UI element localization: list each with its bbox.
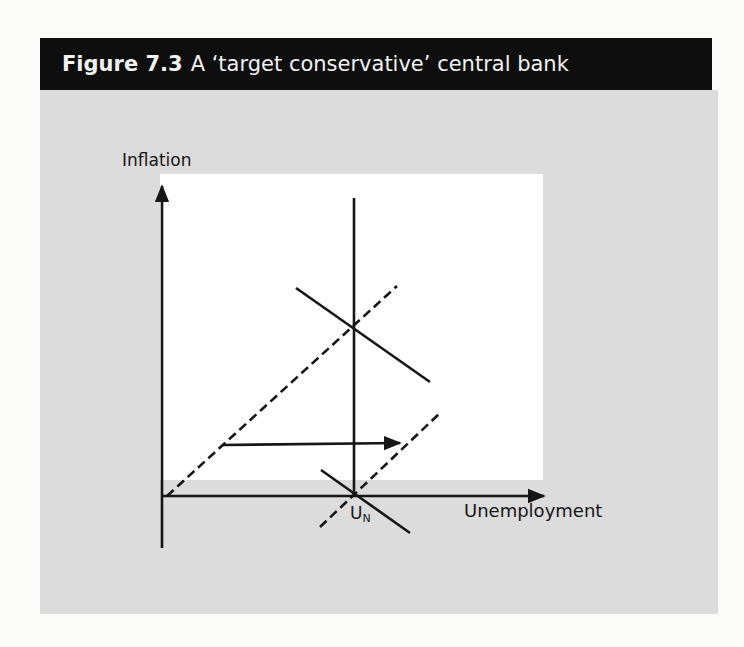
x-axis-label: Unemployment (464, 500, 602, 521)
lower-dashed-line (320, 413, 440, 527)
natural-rate-letter: U (350, 503, 362, 523)
page: Figure 7.3 A ‘target conservative’ centr… (0, 0, 744, 647)
diagram-canvas (0, 0, 744, 647)
natural-rate-subscript: N (362, 512, 370, 525)
upper-dashed-line (167, 286, 397, 496)
y-axis-label: Inflation (122, 150, 191, 170)
natural-rate-label: UN (350, 503, 371, 525)
upper-solid-line (296, 288, 430, 382)
horizontal-shift-arrow (223, 443, 400, 445)
